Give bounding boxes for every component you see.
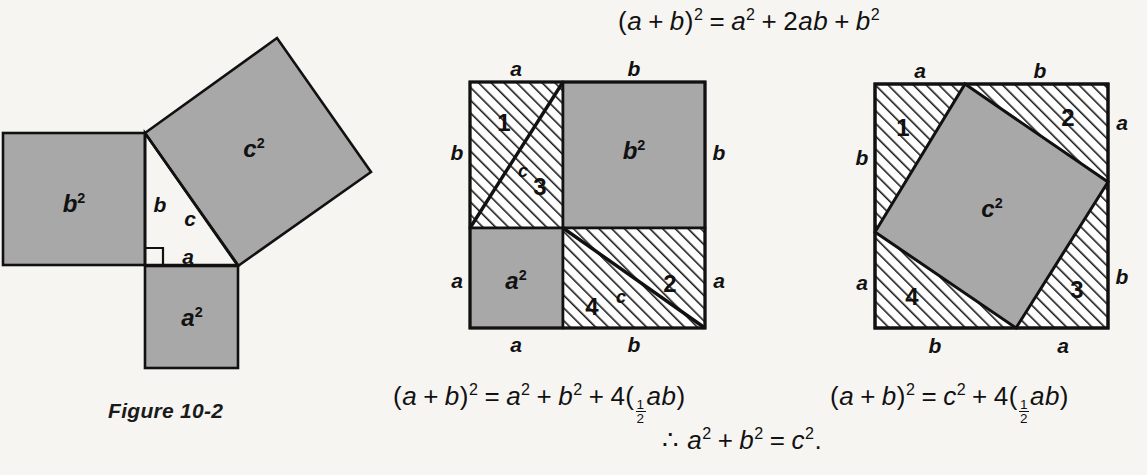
figure1-label-b-squared: b2 <box>63 191 86 216</box>
figure3-label-right-b: b <box>1116 266 1129 287</box>
figure2-label-left-b: b <box>451 142 464 163</box>
figure1-label-side-b: b <box>154 194 167 215</box>
figure3-label-bottom-a: a <box>1057 335 1069 356</box>
figure2-label-hyp-lower-c: c <box>616 288 626 306</box>
figure2-label-bottom-b: b <box>628 334 641 355</box>
figure2-label-right-b: b <box>713 142 726 163</box>
figure2-label-right-a: a <box>713 270 725 291</box>
figure3-label-triangle-3: 3 <box>1070 278 1083 302</box>
figure-page: (a+b)2=a2+2ab+b2 b2 c2 a2 b c a a b b a … <box>0 0 1147 475</box>
figure3-label-left-a: a <box>856 272 868 293</box>
figure3-label-bottom-b: b <box>929 335 942 356</box>
figure3-label-top-a: a <box>914 60 926 81</box>
figure-caption: Figure 10-2 <box>108 400 223 421</box>
equation-top: (a+b)2=a2+2ab+b2 <box>618 6 880 34</box>
equation-right-bottom: (a+b)2=c2+4(12ab) <box>830 381 1069 426</box>
figure2-label-triangle-2: 2 <box>663 272 676 296</box>
figure2-label-left-a: a <box>451 270 463 291</box>
figure3-label-left-b: b <box>856 147 869 168</box>
figure1-right-angle-mark <box>145 248 163 265</box>
figure3-label-triangle-2: 2 <box>1061 106 1074 130</box>
equation-left-bottom: (a+b)2=a2+b2+4(12ab) <box>393 381 686 426</box>
figure1-label-a-squared: a2 <box>181 305 202 330</box>
figure3-label-top-b: b <box>1034 60 1047 81</box>
figure2-label-a-squared: a2 <box>505 268 526 293</box>
figure2-label-bottom-a: a <box>510 334 522 355</box>
figure3-label-right-a: a <box>1116 112 1128 133</box>
figure2-label-hyp-upper-c: c <box>518 162 528 180</box>
figure2-label-triangle-1: 1 <box>497 111 510 135</box>
figure1-label-side-c: c <box>184 208 196 229</box>
figure1-label-c-squared: c2 <box>243 136 264 161</box>
figure3-label-c-squared: c2 <box>981 196 1002 221</box>
equation-conclusion: ∴ a2+b2=c2. <box>662 425 822 453</box>
figure1-label-side-a: a <box>182 246 194 267</box>
figure2-label-triangle-4: 4 <box>585 295 598 319</box>
figure3-label-triangle-4: 4 <box>905 285 918 309</box>
figure2-label-top-a: a <box>510 58 522 79</box>
figure2-label-top-b: b <box>628 58 641 79</box>
figure2-label-b-squared: b2 <box>623 138 646 163</box>
figure3-label-triangle-1: 1 <box>896 116 909 140</box>
figure2-label-triangle-3: 3 <box>533 175 546 199</box>
